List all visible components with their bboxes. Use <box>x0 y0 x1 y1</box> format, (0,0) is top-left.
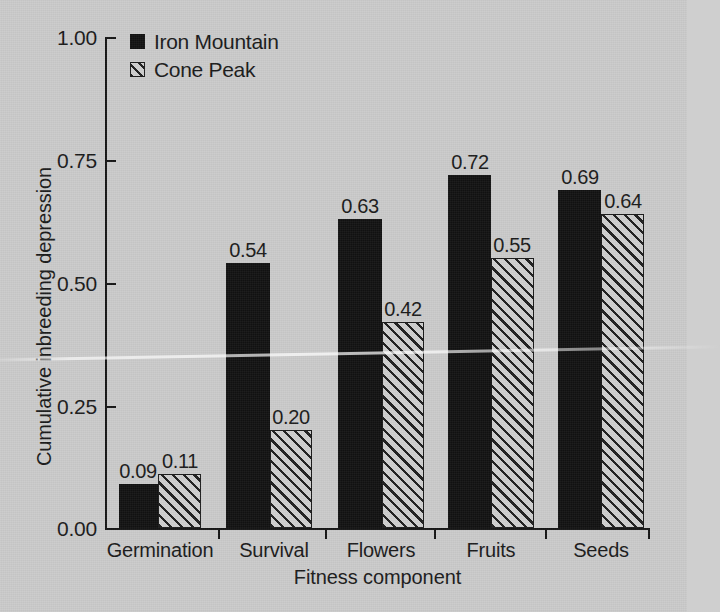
bar-cone-peak-seeds <box>601 214 644 528</box>
bar-value-cone-peak-germination: 0.11 <box>134 451 226 471</box>
bar-value-cone-peak-flowers: 0.42 <box>357 299 449 319</box>
bar-iron-mountain-survival <box>226 263 270 528</box>
bar-value-cone-peak-fruits: 0.55 <box>466 235 558 255</box>
y-axis-title: Cumulative inbreeding depression <box>33 107 56 527</box>
bar-value-iron-mountain-seeds: 0.69 <box>534 167 626 187</box>
hatched-square-icon <box>130 62 145 77</box>
chart-legend: Iron Mountain Cone Peak <box>130 28 279 84</box>
x-axis-line <box>105 528 650 530</box>
y-tick-label-0.75: 0.75 <box>19 150 97 171</box>
x-tick-label-survival: Survival <box>214 538 334 562</box>
bar-cone-peak-germination <box>158 474 201 528</box>
y-tick-mark-1.00 <box>107 37 116 39</box>
bar-value-iron-mountain-flowers: 0.63 <box>314 196 406 216</box>
x-tick-label-fruits: Fruits <box>432 538 550 562</box>
y-tick-label-0.50: 0.50 <box>19 273 97 294</box>
x-tick-label-germination: Germination <box>95 538 225 562</box>
x-axis-title: Fitness component <box>105 566 650 589</box>
y-tick-label-0.00: 0.00 <box>19 518 97 539</box>
bar-cone-peak-survival <box>270 430 312 528</box>
bar-cone-peak-flowers <box>382 322 424 528</box>
y-tick-label-0.25: 0.25 <box>19 396 97 417</box>
bar-iron-mountain-germination <box>119 484 158 528</box>
bar-iron-mountain-seeds <box>558 190 601 528</box>
legend-item-cone-peak: Cone Peak <box>130 56 279 82</box>
bar-iron-mountain-flowers <box>338 219 382 528</box>
y-tick-label-1.00: 1.00 <box>19 27 97 48</box>
y-tick-mark-0.25 <box>107 406 116 408</box>
bar-value-cone-peak-survival: 0.20 <box>245 407 337 427</box>
y-tick-mark-0.75 <box>107 160 116 162</box>
bar-cone-peak-fruits <box>491 258 534 528</box>
bar-value-iron-mountain-survival: 0.54 <box>202 240 294 260</box>
legend-label-iron-mountain: Iron Mountain <box>154 31 279 52</box>
solid-square-icon <box>130 34 145 49</box>
legend-label-cone-peak: Cone Peak <box>154 59 255 80</box>
bar-iron-mountain-fruits <box>448 175 491 528</box>
bar-value-iron-mountain-fruits: 0.72 <box>424 152 516 172</box>
legend-item-iron-mountain: Iron Mountain <box>130 28 279 54</box>
y-tick-mark-0.00 <box>107 528 116 530</box>
x-tick-label-seeds: Seeds <box>542 538 660 562</box>
y-tick-mark-0.50 <box>107 283 116 285</box>
x-tick-label-flowers: Flowers <box>322 538 440 562</box>
bar-value-cone-peak-seeds: 0.64 <box>577 191 669 211</box>
